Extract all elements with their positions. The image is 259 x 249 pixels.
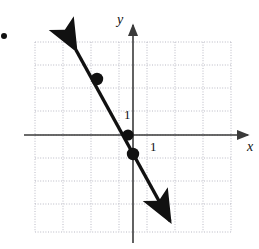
graph-figure: y x 1 1: [0, 0, 259, 249]
data-point: [127, 148, 139, 160]
y-axis-label: y: [117, 13, 123, 27]
coordinate-plane-svg: [0, 0, 259, 249]
y-unit-tick-label: 1: [124, 108, 131, 121]
x-unit-tick-label: 1: [150, 140, 157, 153]
data-point: [91, 73, 103, 85]
x-axis-label: x: [247, 140, 253, 154]
data-point: [122, 129, 133, 140]
